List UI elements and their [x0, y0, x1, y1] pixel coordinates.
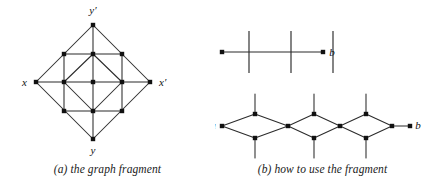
graph-vertex — [34, 80, 38, 84]
chain-edge — [314, 126, 340, 138]
label-x-prime: x′ — [158, 76, 167, 88]
graph-vertex — [120, 52, 124, 56]
panel-graph-fragment: y′xx′y (a) the graph fragment — [0, 0, 215, 191]
figure-container: y′xx′y (a) the graph fragment abab (b) h… — [0, 0, 430, 191]
label-x: x — [21, 76, 27, 88]
chain-edge — [366, 126, 392, 138]
graph-vertex — [62, 52, 66, 56]
graph-vertex — [148, 80, 152, 84]
chain-vertex — [390, 124, 394, 128]
graph-vertex — [120, 109, 124, 113]
caption-panel-a: (a) the graph fragment — [0, 163, 215, 175]
label-y-prime: y′ — [88, 4, 97, 16]
graph-edge — [64, 82, 93, 111]
graph-vertex — [120, 80, 124, 84]
chain-edge — [340, 114, 366, 126]
graph-vertex — [91, 109, 95, 113]
label-y: y — [90, 144, 96, 156]
chain-edge — [288, 114, 314, 126]
chain-vertex — [364, 136, 368, 140]
caption-panel-b: (b) how to use the fragment — [215, 163, 430, 175]
label-b-bottom: b — [415, 119, 421, 131]
chain-vertex — [220, 124, 224, 128]
chain-edge — [366, 114, 392, 126]
chain-edge — [340, 126, 366, 138]
chain-vertex — [338, 124, 342, 128]
chain-edge — [255, 114, 288, 126]
graph-edge — [93, 82, 122, 111]
chain-vertex — [253, 136, 257, 140]
graph-vertex — [91, 52, 95, 56]
chain-vertex — [312, 112, 316, 116]
graph-vertex — [62, 80, 66, 84]
chain-edge — [288, 126, 314, 138]
graph-edge — [64, 54, 93, 82]
label-b-top: b — [329, 46, 335, 58]
endpoint-a-top — [220, 50, 224, 54]
chain-edge — [255, 126, 288, 138]
label-a-bottom: a — [215, 119, 216, 131]
graph-vertex — [91, 137, 95, 141]
graph-edge — [93, 54, 122, 82]
graph-vertex — [62, 109, 66, 113]
chain-edge — [222, 114, 255, 126]
chain-edge — [222, 126, 255, 138]
chain-vertex — [364, 112, 368, 116]
chain-vertex — [408, 124, 412, 128]
panel-how-to-use: abab (b) how to use the fragment — [215, 0, 430, 191]
graph-vertex — [91, 23, 95, 27]
chain-vertex — [286, 124, 290, 128]
how-to-use-drawing: abab — [215, 0, 430, 160]
chain-vertex — [312, 136, 316, 140]
graph-fragment-drawing: y′xx′y — [0, 0, 215, 160]
endpoint-b-top — [321, 50, 325, 54]
chain-edge — [314, 114, 340, 126]
graph-vertex — [91, 80, 95, 84]
chain-vertex — [253, 112, 257, 116]
